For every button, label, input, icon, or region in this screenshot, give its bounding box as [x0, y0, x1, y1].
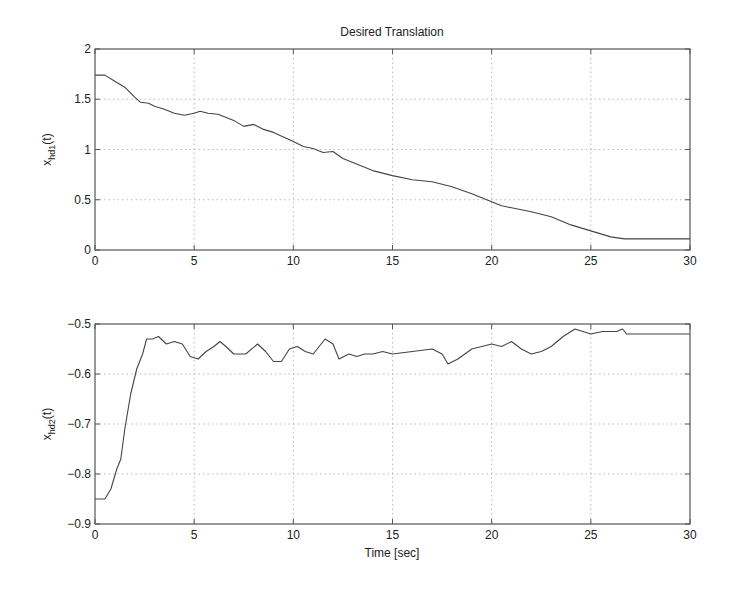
figure: Desired Translation 051015202530 00.511.…	[0, 0, 734, 594]
x-tick-label: 20	[485, 254, 499, 268]
x-tick-label: 10	[287, 528, 301, 542]
top-axes-xhd1: 051015202530 00.511.52 xhd1(t)	[40, 42, 697, 268]
x-tick-label: 30	[683, 528, 697, 542]
y-tick-labels: 00.511.52	[74, 42, 91, 257]
x-tick-labels: 051015202530	[92, 528, 697, 542]
bottom-axes-xhd2: 051015202530 −0.9−0.8−0.7−0.6−0.5 xhd2(t…	[40, 317, 697, 542]
x-tick-label: 30	[683, 254, 697, 268]
y-tick-labels: −0.9−0.8−0.7−0.6−0.5	[67, 317, 91, 531]
x-tick-label: 10	[287, 254, 301, 268]
y-tick-label: 0	[84, 243, 91, 257]
y-tick-label: 1	[84, 143, 91, 157]
x-tick-label: 20	[485, 528, 499, 542]
x-tick-label: 0	[92, 528, 99, 542]
x-tick-labels: 051015202530	[92, 254, 697, 268]
y-tick-label: −0.7	[67, 417, 91, 431]
y-tick-label: −0.6	[67, 367, 91, 381]
chart-title: Desired Translation	[340, 25, 443, 39]
y-axis-label: xhd2(t)	[40, 408, 57, 440]
x-tick-label: 5	[191, 254, 198, 268]
gridlines	[95, 49, 690, 250]
x-tick-label: 25	[584, 254, 598, 268]
y-tick-label: −0.5	[67, 317, 91, 331]
y-axis-label: xhd1(t)	[40, 133, 57, 165]
x-axis-label: Time [sec]	[365, 546, 420, 560]
x-tick-label: 0	[92, 254, 99, 268]
y-tick-label: −0.8	[67, 467, 91, 481]
y-tick-label: 1.5	[74, 92, 91, 106]
x-tick-label: 5	[191, 528, 198, 542]
y-tick-label: 2	[84, 42, 91, 56]
x-tick-label: 25	[584, 528, 598, 542]
y-tick-label: 0.5	[74, 193, 91, 207]
y-tick-label: −0.9	[67, 517, 91, 531]
x-tick-label: 15	[386, 528, 400, 542]
x-tick-label: 15	[386, 254, 400, 268]
